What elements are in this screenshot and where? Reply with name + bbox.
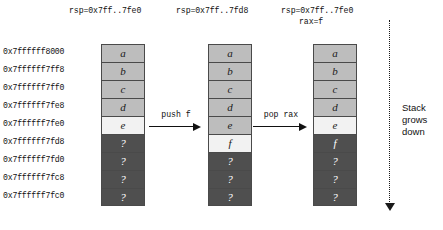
stack-cell-top: e — [101, 116, 145, 134]
transition-push-label: push f — [149, 110, 203, 119]
transition-pop: pop rax — [253, 110, 309, 131]
column-header-stack-after-pop: rsp=0x7ff..7fe0 — [281, 6, 353, 15]
transition-pop-label: pop rax — [253, 110, 309, 119]
stack-cell: c — [101, 80, 145, 98]
stack-cell: d — [101, 98, 145, 116]
annotation-line-3: down — [402, 126, 425, 138]
stack-cell: b — [101, 62, 145, 80]
address-label: 0x7ffffff7fc8 — [3, 173, 97, 182]
annotation-line-1: Stack — [402, 102, 426, 114]
stack-cell: ? — [208, 152, 252, 170]
column-header-stack-before: rsp=0x7ff..7fe0 — [69, 6, 141, 15]
transition-push: push f — [149, 110, 203, 131]
stack-column-before: a b c d e ? ? ? ? — [101, 44, 145, 206]
address-label: 0x7ffffff7fd8 — [3, 137, 97, 146]
stack-cell: ? — [208, 170, 252, 188]
stack-cell: a — [208, 44, 252, 62]
push-arrow-icon — [149, 122, 203, 131]
stack-diagram: rsp=0x7ff..7fe0 rsp=0x7ff..7fd8 rsp=0x7f… — [0, 0, 443, 230]
address-label: 0x7ffffff7ff0 — [3, 83, 97, 92]
stack-cell-top: f — [208, 134, 252, 152]
stack-grows-down-annotation: Stack grows down — [380, 20, 443, 225]
address-label: 0x7ffffff8000 — [3, 47, 97, 56]
stack-cell: b — [313, 62, 357, 80]
stack-cell: ? — [313, 188, 357, 206]
stack-column-after-pop: a b c d e f ? ? ? — [313, 44, 357, 206]
annotation-line-2: grows — [402, 114, 427, 126]
address-label: 0x7ffffff7ff8 — [3, 65, 97, 74]
stack-cell: ? — [101, 152, 145, 170]
stack-cell: ? — [101, 188, 145, 206]
address-label: 0x7ffffff7fe8 — [3, 101, 97, 110]
stack-cell: f — [313, 134, 357, 152]
stack-cell: ? — [313, 152, 357, 170]
stack-column-after-push: a b c d e f ? ? ? — [208, 44, 252, 206]
stack-cell: a — [101, 44, 145, 62]
pop-arrow-icon — [253, 122, 309, 131]
stack-cell: b — [208, 62, 252, 80]
stack-cell: ? — [101, 134, 145, 152]
stack-cell: d — [208, 98, 252, 116]
address-label: 0x7ffffff7fe0 — [3, 119, 97, 128]
register-rax-value: rax=f — [299, 17, 323, 26]
dotted-line — [389, 20, 390, 204]
stack-cell: a — [313, 44, 357, 62]
stack-cell: d — [313, 98, 357, 116]
stack-cell: ? — [101, 170, 145, 188]
down-arrow-icon — [385, 203, 395, 211]
stack-cell: c — [208, 80, 252, 98]
address-label: 0x7ffffff7fd0 — [3, 155, 97, 164]
address-label: 0x7ffffff7fc0 — [3, 191, 97, 200]
stack-cell: ? — [313, 170, 357, 188]
stack-cell-top: e — [313, 116, 357, 134]
stack-cell: ? — [208, 188, 252, 206]
stack-cell: c — [313, 80, 357, 98]
column-header-stack-after-push: rsp=0x7ff..7fd8 — [176, 6, 248, 15]
stack-cell: e — [208, 116, 252, 134]
